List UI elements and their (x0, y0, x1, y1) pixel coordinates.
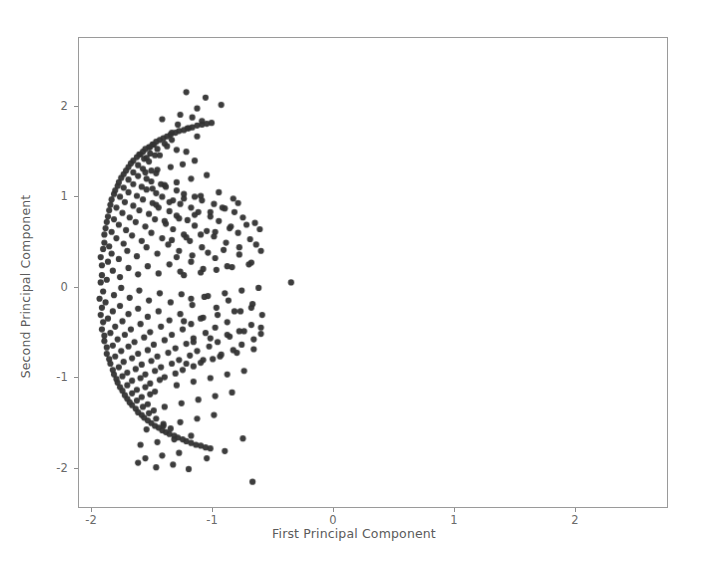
y-tick-mark-4 (74, 468, 78, 469)
y-tick-label-0: 2 (50, 99, 68, 113)
plot-area (78, 37, 668, 508)
x-tick-label-4: 2 (571, 513, 578, 527)
x-tick-mark-0 (91, 508, 92, 512)
y-tick-mark-0 (74, 106, 78, 107)
y-tick-label-4: -2 (44, 461, 68, 475)
y-tick-label-3: -1 (44, 370, 68, 384)
y-tick-label-2: 0 (50, 280, 68, 294)
y-axis-label: Second Principal Component (18, 177, 33, 397)
y-tick-mark-2 (74, 287, 78, 288)
x-tick-mark-2 (333, 508, 334, 512)
pca-scatter-figure: -2 -1 0 1 2 2 1 0 -1 -2 First Principal … (0, 0, 708, 572)
scatter-points-layer (79, 38, 667, 507)
x-tick-mark-3 (454, 508, 455, 512)
y-tick-mark-1 (74, 196, 78, 197)
x-tick-mark-4 (575, 508, 576, 512)
x-tick-mark-1 (212, 508, 213, 512)
x-tick-label-0: -2 (85, 513, 97, 527)
x-tick-label-3: 1 (450, 513, 457, 527)
y-tick-label-1: 1 (50, 189, 68, 203)
x-tick-label-1: -1 (206, 513, 218, 527)
x-axis-label: First Principal Component (0, 526, 708, 541)
x-tick-label-2: 0 (329, 513, 336, 527)
y-tick-mark-3 (74, 377, 78, 378)
